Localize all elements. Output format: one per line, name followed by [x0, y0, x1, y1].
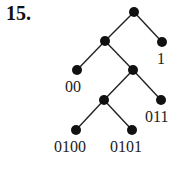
edge-root-0: [105, 12, 134, 41]
label-00: 00: [65, 79, 81, 95]
node-1: [157, 37, 167, 47]
label-0101: 0101: [110, 139, 142, 155]
node-0100: [71, 125, 81, 135]
label-0100: 0100: [54, 139, 86, 155]
node-root: [129, 7, 139, 17]
edge-01-011: [133, 70, 161, 100]
node-0: [100, 36, 110, 46]
edge-010-0101: [104, 100, 132, 130]
edge-0-00: [77, 41, 105, 70]
node-010: [99, 95, 109, 105]
node-01: [128, 65, 138, 75]
node-0101: [127, 125, 137, 135]
node-011: [156, 95, 166, 105]
edge-0-01: [105, 41, 133, 70]
binary-tree-diagram: [0, 0, 178, 190]
label-011: 011: [145, 109, 168, 125]
edge-01-010: [104, 70, 133, 100]
node-00: [72, 65, 82, 75]
label-1: 1: [157, 51, 165, 67]
edge-root-1: [134, 12, 162, 42]
edge-010-0100: [76, 100, 104, 130]
